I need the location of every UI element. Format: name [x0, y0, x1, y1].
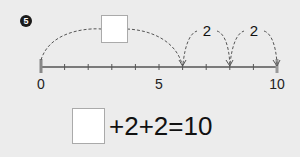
number-line-exercise: 5 [0, 0, 300, 157]
jump-arc-6-to-8-left [183, 31, 197, 64]
jump-arc-0-to-6-left [41, 29, 101, 60]
jump-label-8-to-10: 2 [250, 22, 258, 39]
start-marker [40, 59, 43, 73]
jump-arc-8-to-10-left [230, 31, 244, 64]
jump-answer-box[interactable] [101, 15, 128, 43]
equation-answer-box[interactable] [72, 108, 105, 144]
jump-label-6-to-8: 2 [203, 22, 211, 39]
equation-text: +2+2=10 [109, 111, 212, 142]
jump-arc-8-to-10-right [264, 31, 277, 64]
tick-label-10: 10 [269, 76, 285, 92]
equation: +2+2=10 [72, 108, 212, 144]
tick-label-5: 5 [155, 76, 163, 92]
tick-label-0: 0 [37, 76, 45, 92]
jump-arc-0-to-6-right [127, 29, 182, 64]
jump-arc-6-to-8-right [217, 31, 230, 64]
